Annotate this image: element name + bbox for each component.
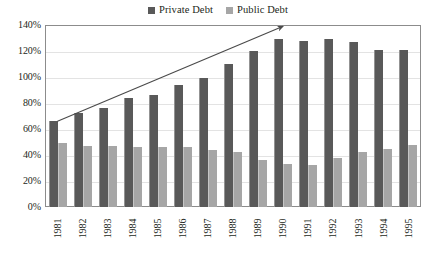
- bar-group-1994: [371, 25, 396, 207]
- bar-public-debt-1987: [208, 150, 217, 207]
- bar-group-1991: [296, 25, 321, 207]
- x-axis-tick-label-1988: 1988: [226, 209, 240, 257]
- x-axis-tick-label-1995: 1995: [401, 209, 415, 257]
- x-axis-tick-label-1990: 1990: [276, 209, 290, 257]
- y-axis-tick-label: 80%: [23, 98, 41, 108]
- square-swatch-icon: [226, 7, 233, 14]
- bar-group-1989: [246, 25, 271, 207]
- legend-entry-public-debt: Public Debt: [226, 4, 288, 16]
- bar-private-debt-1985: [149, 95, 158, 207]
- y-axis: 0%20%40%60%80%100%120%140%: [0, 25, 41, 207]
- bar-group-1986: [170, 25, 195, 207]
- x-axis: 1981198219831984198519861987198819891990…: [45, 209, 421, 259]
- bar-group-1993: [346, 25, 371, 207]
- y-axis-tick-label: 20%: [23, 176, 41, 186]
- x-axis-tick-label-1984: 1984: [126, 209, 140, 257]
- bar-private-debt-1995: [399, 50, 408, 207]
- bar-public-debt-1993: [358, 152, 367, 207]
- x-axis-tick-label-1985: 1985: [151, 209, 165, 257]
- bar-public-debt-1989: [258, 160, 267, 207]
- bar-public-debt-1994: [383, 149, 392, 208]
- bar-group-1992: [321, 25, 346, 207]
- y-axis-tick-label: 120%: [18, 46, 41, 56]
- bar-private-debt-1987: [199, 78, 208, 207]
- bar-private-debt-1983: [99, 108, 108, 207]
- square-swatch-icon: [148, 7, 155, 14]
- bar-public-debt-1983: [108, 146, 117, 207]
- bar-private-debt-1982: [74, 113, 83, 207]
- y-axis-tick-label: 100%: [18, 72, 41, 82]
- bar-public-debt-1981: [58, 143, 67, 207]
- x-axis-tick-label-1983: 1983: [101, 209, 115, 257]
- bar-group-1995: [396, 25, 421, 207]
- bar-private-debt-1992: [324, 39, 333, 207]
- x-axis-tick-label-1986: 1986: [176, 209, 190, 257]
- chart-legend: Private Debt Public Debt: [0, 4, 436, 16]
- bar-group-1984: [120, 25, 145, 207]
- legend-label-private-debt: Private Debt: [159, 4, 213, 16]
- bar-group-1988: [220, 25, 245, 207]
- bar-private-debt-1984: [124, 98, 133, 207]
- x-axis-tick-label-1982: 1982: [76, 209, 90, 257]
- bar-group-1985: [145, 25, 170, 207]
- x-axis-tick-label-1991: 1991: [301, 209, 315, 257]
- legend-entry-private-debt: Private Debt: [148, 4, 213, 16]
- bar-private-debt-1991: [299, 41, 308, 207]
- bars-layer: [45, 25, 421, 207]
- bar-group-1990: [271, 25, 296, 207]
- y-axis-tick-label: 40%: [23, 150, 41, 160]
- bar-public-debt-1992: [333, 158, 342, 207]
- bar-private-debt-1990: [274, 39, 283, 207]
- x-axis-tick-label-1981: 1981: [51, 209, 65, 257]
- bar-private-debt-1989: [249, 51, 258, 207]
- y-axis-tick-label: 60%: [23, 124, 41, 134]
- y-axis-tick-label: 140%: [18, 20, 41, 30]
- bar-public-debt-1984: [133, 147, 142, 207]
- x-axis-tick-label-1987: 1987: [201, 209, 215, 257]
- debt-bar-chart: Private Debt Public Debt 0%20%40%60%80%1…: [0, 0, 436, 259]
- bar-public-debt-1988: [233, 152, 242, 207]
- bar-group-1981: [45, 25, 70, 207]
- y-axis-tick-label: 0%: [28, 202, 41, 212]
- bar-group-1983: [95, 25, 120, 207]
- bar-public-debt-1990: [283, 164, 292, 207]
- bar-public-debt-1995: [408, 145, 417, 207]
- bar-public-debt-1982: [83, 146, 92, 207]
- x-axis-tick-label-1989: 1989: [251, 209, 265, 257]
- bar-private-debt-1994: [374, 50, 383, 207]
- x-axis-tick-label-1994: 1994: [376, 209, 390, 257]
- x-axis-tick-label-1993: 1993: [351, 209, 365, 257]
- bar-private-debt-1986: [174, 85, 183, 207]
- bar-group-1982: [70, 25, 95, 207]
- bar-public-debt-1991: [308, 165, 317, 207]
- bar-group-1987: [195, 25, 220, 207]
- x-axis-tick-label-1992: 1992: [326, 209, 340, 257]
- bar-private-debt-1981: [49, 121, 58, 207]
- bar-public-debt-1986: [183, 147, 192, 207]
- bar-private-debt-1988: [224, 64, 233, 207]
- bar-private-debt-1993: [349, 42, 358, 207]
- legend-label-public-debt: Public Debt: [237, 4, 288, 16]
- bar-public-debt-1985: [158, 147, 167, 207]
